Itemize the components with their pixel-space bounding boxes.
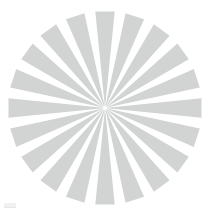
corner-artifact	[4, 203, 16, 208]
starburst-chart	[0, 0, 217, 214]
figure-canvas	[0, 0, 217, 214]
